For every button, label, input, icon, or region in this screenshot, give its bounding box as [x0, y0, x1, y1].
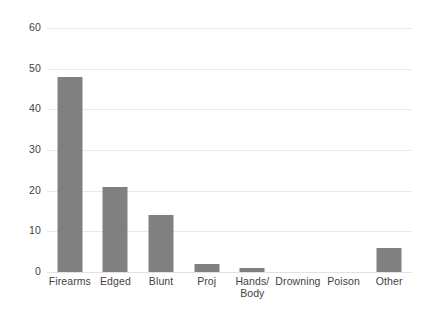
x-tick-slot: Firearms	[47, 276, 93, 288]
y-tick-label: 20	[7, 185, 41, 196]
bar-slot	[230, 28, 276, 272]
bar[interactable]	[194, 264, 219, 272]
y-tick-label: 60	[7, 22, 41, 33]
x-tick-label: Proj	[184, 276, 230, 288]
x-tick-label: Hands/ Body	[230, 276, 276, 299]
x-tick-slot: Poison	[321, 276, 367, 288]
bar-slot	[321, 28, 367, 272]
y-tick-label: 10	[7, 225, 41, 236]
bar-slot	[184, 28, 230, 272]
bar-slot	[47, 28, 93, 272]
bar-slot	[275, 28, 321, 272]
bar-slot	[366, 28, 412, 272]
x-tick-slot: Blunt	[138, 276, 184, 288]
bar[interactable]	[377, 248, 402, 272]
bars-layer	[47, 28, 412, 272]
y-axis: 0102030405060	[0, 0, 41, 316]
x-tick-label: Edged	[93, 276, 139, 288]
x-tick-label: Drowning	[275, 276, 321, 288]
gridline-0	[47, 272, 412, 273]
y-tick-label: 0	[7, 266, 41, 277]
x-tick-slot: Proj	[184, 276, 230, 288]
x-axis: FirearmsEdgedBluntProjHands/ BodyDrownin…	[47, 276, 412, 316]
x-tick-slot: Drowning	[275, 276, 321, 288]
bar-slot	[93, 28, 139, 272]
y-tick-label: 40	[7, 103, 41, 114]
x-tick-slot: Hands/ Body	[230, 276, 276, 299]
x-tick-slot: Other	[366, 276, 412, 288]
bar[interactable]	[149, 215, 174, 272]
x-tick-label: Poison	[321, 276, 367, 288]
x-tick-label: Blunt	[138, 276, 184, 288]
y-tick-label: 50	[7, 63, 41, 74]
y-tick-label: 30	[7, 144, 41, 155]
bar-slot	[138, 28, 184, 272]
bar[interactable]	[240, 268, 265, 272]
x-tick-slot: Edged	[93, 276, 139, 288]
bar[interactable]	[103, 187, 128, 272]
x-tick-label: Firearms	[47, 276, 93, 288]
bar[interactable]	[57, 77, 82, 272]
x-tick-label: Other	[366, 276, 412, 288]
bar-chart: 0102030405060 FirearmsEdgedBluntProjHand…	[0, 0, 433, 316]
